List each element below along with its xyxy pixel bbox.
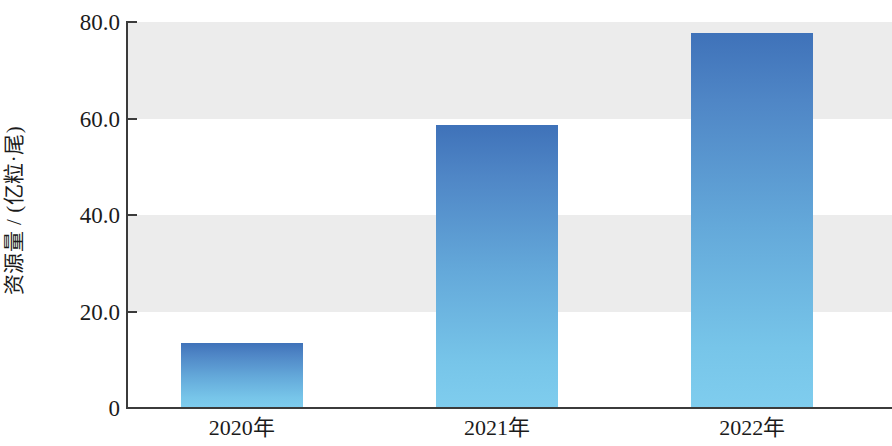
y-axis-tick-mark	[126, 21, 137, 23]
x-axis-tick-label: 2021年	[464, 413, 530, 443]
y-axis-tick-label: 0	[34, 397, 120, 420]
bar	[691, 33, 813, 408]
bar-fill	[181, 343, 303, 408]
y-axis-tick-label: 80.0	[34, 11, 120, 34]
y-axis-title-text: 资源量 / (亿粒·尾)	[5, 125, 26, 294]
x-axis-line	[126, 407, 892, 409]
x-axis-tick-label: 2020年	[209, 413, 275, 443]
bar-chart-figure: 资源量 / (亿粒·尾) 020.040.060.080.0 2020年2021…	[0, 0, 892, 446]
bar	[181, 343, 303, 408]
plot-area	[126, 0, 892, 409]
x-axis-tick-labels: 2020年2021年2022年	[126, 413, 892, 446]
y-axis-tick-label: 60.0	[34, 107, 120, 130]
bar-fill	[691, 33, 813, 408]
y-axis-tick-label: 40.0	[34, 204, 120, 227]
bar-fill	[436, 125, 558, 408]
y-axis-tick-mark	[126, 311, 137, 313]
y-axis-title: 资源量 / (亿粒·尾)	[0, 0, 30, 420]
bar	[436, 125, 558, 408]
x-axis-tick-label: 2022年	[719, 413, 785, 443]
y-axis-tick-label: 20.0	[34, 300, 120, 323]
y-axis-tick-mark	[126, 214, 137, 216]
y-axis-tick-labels: 020.040.060.080.0	[30, 0, 120, 446]
y-axis-tick-mark	[126, 118, 137, 120]
